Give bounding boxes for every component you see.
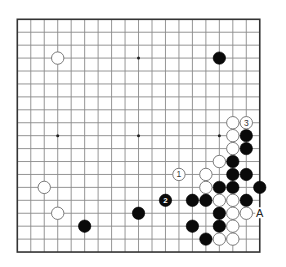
black-stone-circle <box>186 194 198 206</box>
black-stone <box>186 220 198 232</box>
white-stone <box>227 194 239 206</box>
black-stone <box>132 207 144 219</box>
star-point <box>137 134 140 137</box>
black-stone <box>240 168 252 180</box>
black-stone <box>227 155 239 167</box>
black-stone-circle <box>186 220 198 232</box>
white-stone-circle <box>227 142 239 154</box>
white-stone-circle <box>227 194 239 206</box>
move-number: 1 <box>177 169 182 179</box>
black-stone <box>200 194 212 206</box>
black-stone <box>186 194 198 206</box>
star-point <box>56 134 59 137</box>
black-stone <box>213 181 225 193</box>
black-stone <box>78 220 90 232</box>
black-stone-circle <box>200 233 212 245</box>
black-stone-circle <box>132 207 144 219</box>
white-stone-circle <box>213 194 225 206</box>
black-stone-circle <box>213 52 225 64</box>
point-marker: A <box>255 207 264 219</box>
white-stone <box>200 181 212 193</box>
white-stone <box>38 181 50 193</box>
black-stone <box>200 233 212 245</box>
marker-label: A <box>256 207 264 219</box>
black-stone-circle <box>213 181 225 193</box>
black-stone <box>254 181 266 193</box>
white-stone <box>213 155 225 167</box>
white-stone <box>227 233 239 245</box>
white-stone-circle <box>227 117 239 129</box>
star-point <box>218 134 221 137</box>
black-stone-circle <box>213 220 225 232</box>
black-stone <box>213 220 225 232</box>
black-stone-circle <box>240 129 252 141</box>
black-stone-circle <box>227 168 239 180</box>
white-stone-circle <box>213 233 225 245</box>
white-stone-circle <box>200 181 212 193</box>
white-stone-circle <box>240 207 252 219</box>
black-stone-circle <box>240 142 252 154</box>
white-stone-circle <box>227 220 239 232</box>
black-stone <box>213 52 225 64</box>
white-stone <box>213 233 225 245</box>
black-stone: 2 <box>159 194 171 206</box>
white-stone-circle <box>227 233 239 245</box>
white-stone-circle <box>227 207 239 219</box>
white-stone <box>52 207 64 219</box>
white-stone <box>240 207 252 219</box>
white-stone-circle <box>38 181 50 193</box>
white-stone <box>213 194 225 206</box>
go-board-diagram: 231 A <box>0 0 286 267</box>
white-stone <box>227 129 239 141</box>
black-stone-circle <box>200 194 212 206</box>
black-stone <box>227 168 239 180</box>
black-stone-circle <box>240 168 252 180</box>
white-stone <box>227 142 239 154</box>
black-stone-circle <box>254 181 266 193</box>
white-stone: 3 <box>240 117 252 129</box>
white-stone-circle <box>200 168 212 180</box>
move-number: 3 <box>244 118 249 128</box>
white-stone <box>227 117 239 129</box>
star-point <box>137 57 140 60</box>
move-number: 2 <box>163 196 168 205</box>
white-stone-circle <box>52 207 64 219</box>
white-stone-circle <box>52 52 64 64</box>
white-stone: 1 <box>173 168 185 180</box>
markers-layer: A <box>255 207 264 219</box>
black-stone <box>240 194 252 206</box>
black-stone-circle <box>227 181 239 193</box>
black-stone-circle <box>227 155 239 167</box>
white-stone-circle <box>227 129 239 141</box>
white-stone <box>200 168 212 180</box>
go-board: 231 A <box>0 0 286 267</box>
white-stone <box>227 220 239 232</box>
white-stone <box>227 207 239 219</box>
black-stone-circle <box>213 207 225 219</box>
black-stone-circle <box>240 194 252 206</box>
white-stone-circle <box>213 155 225 167</box>
black-stone-circle <box>78 220 90 232</box>
white-stone <box>52 52 64 64</box>
black-stone <box>227 181 239 193</box>
black-stone <box>213 207 225 219</box>
black-stone <box>240 129 252 141</box>
black-stone <box>240 142 252 154</box>
